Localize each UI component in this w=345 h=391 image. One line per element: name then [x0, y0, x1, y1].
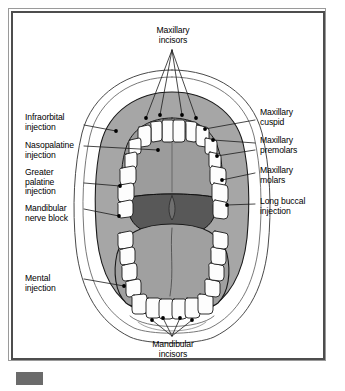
tooth-max-central-left [162, 120, 174, 142]
tooth-mand-molar1-left [122, 263, 137, 281]
label-mental-injection: Mental injection [25, 274, 95, 293]
injection-dot-greater-palatine [118, 184, 122, 188]
label-greater-palatine-injection: Greater palatine injection [25, 168, 95, 197]
tooth-max-molar1-right [210, 166, 226, 186]
injection-dot-mand-2 [161, 316, 165, 320]
label-nasopalatine-injection: Nasopalatine injection [25, 141, 103, 160]
label-mandibular-incisors: Mandibular incisors [138, 340, 208, 359]
injection-dot-max-4 [194, 116, 198, 120]
label-infraorbital-injection: Infraorbital injection [25, 113, 100, 132]
label-mandibular-nerve-block: Mandibular nerve block [25, 204, 100, 223]
label-maxillary-premolars: Maxillary premolars [260, 136, 332, 155]
injection-dot-max-2 [158, 113, 162, 117]
tooth-mand-molar3-left [118, 231, 133, 249]
label-maxillary-molars: Maxillary molars [260, 166, 332, 185]
injection-dot-mental [122, 284, 126, 288]
injection-dot-infraorbital-left [114, 129, 118, 133]
injection-dot-premolar-right [211, 138, 215, 142]
label-maxillary-incisors: Maxillary incisors [138, 26, 208, 45]
tooth-max-central-right [173, 120, 185, 142]
tooth-max-molar3-right [213, 200, 228, 219]
tooth-mand-molar3-right [213, 231, 228, 249]
injection-dot-max-3 [180, 113, 184, 117]
tooth-max-lateral-left [151, 121, 163, 142]
injection-dot-premolar2-right [215, 154, 219, 158]
tooth-mand-premolar-right [205, 279, 220, 297]
injection-dot-mand-1 [150, 318, 154, 322]
tooth-max-lateral-right [186, 121, 198, 142]
tooth-max-molar1-left [120, 166, 136, 185]
injection-dot-mand-4 [190, 318, 194, 322]
label-maxillary-cuspid: Maxillary cuspid [260, 108, 332, 127]
injection-dot-mandibular-block [117, 214, 121, 218]
tooth-max-molar2-right [212, 183, 228, 203]
tooth-mand-molar2-right [211, 247, 226, 265]
injection-dot-max-1 [144, 116, 148, 120]
figure-root: Maxillary incisors Infraorbital injectio… [0, 0, 345, 391]
label-long-buccal-injection: Long buccal injection [260, 197, 335, 216]
injection-dot-cuspid-right [203, 127, 207, 131]
tooth-mand-molar1-right [209, 263, 224, 281]
injection-dot-nasopalatine [156, 148, 160, 152]
injection-dot-max-molars-right [220, 178, 224, 182]
tooth-mand-cuspid-left [132, 294, 147, 314]
injection-dot-long-buccal [225, 203, 229, 207]
tooth-mand-cuspid-right [198, 294, 213, 314]
tooth-mand-molar2-left [120, 247, 135, 265]
legend-swatch [16, 372, 43, 385]
injection-dot-mand-3 [178, 316, 182, 320]
